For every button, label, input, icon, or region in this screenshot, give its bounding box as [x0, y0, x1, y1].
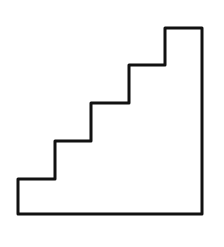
staircase-diagram [0, 0, 224, 247]
staircase-outline [18, 28, 202, 214]
